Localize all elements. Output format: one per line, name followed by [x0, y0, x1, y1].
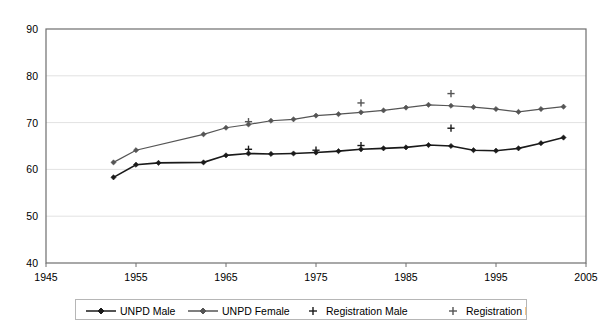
series-unpd-female — [111, 102, 566, 165]
data-point-marker — [245, 146, 252, 153]
legend-marker — [309, 307, 317, 315]
data-point-marker — [268, 151, 273, 156]
data-point-marker — [357, 99, 364, 106]
data-point-marker — [291, 151, 296, 156]
chart-plot-area: 405060708090 194519551965197519851995200… — [0, 0, 602, 290]
data-point-marker — [471, 148, 476, 153]
legend-label: UNPD Male — [120, 305, 176, 317]
legend-item-registration-female[interactable]: Registration Female — [449, 305, 526, 317]
x-tick-label: 2005 — [574, 271, 598, 283]
data-point-marker — [223, 153, 228, 158]
y-tick-label: 90 — [26, 23, 38, 35]
data-point-marker — [448, 143, 453, 148]
data-point-marker — [516, 109, 521, 114]
legend-item-unpd-female[interactable]: UNPD Female — [188, 305, 290, 317]
legend-label: Registration Male — [326, 305, 408, 317]
series-line — [114, 138, 564, 178]
data-point-marker — [291, 117, 296, 122]
data-point-marker — [201, 132, 206, 137]
data-point-marker — [516, 146, 521, 151]
y-tick-label: 50 — [26, 210, 38, 222]
plot-frame — [46, 29, 586, 263]
x-tick-label: 1945 — [34, 271, 58, 283]
chart-root: 405060708090 194519551965197519851995200… — [0, 0, 602, 335]
line-chart: 405060708090 194519551965197519851995200… — [0, 0, 602, 290]
legend-content: UNPD MaleUNPD FemaleRegistration MaleReg… — [76, 300, 526, 319]
data-point-marker — [447, 90, 454, 97]
data-point-marker — [471, 105, 476, 110]
legend-item-unpd-male[interactable]: UNPD Male — [86, 305, 176, 317]
data-point-marker — [313, 113, 318, 118]
x-tick-label: 1995 — [484, 271, 508, 283]
data-point-marker — [381, 146, 386, 151]
data-point-marker — [538, 106, 543, 111]
legend-item-registration-male[interactable]: Registration Male — [309, 305, 408, 317]
legend-label: UNPD Female — [222, 305, 290, 317]
data-point-marker — [336, 149, 341, 154]
data-point-marker — [133, 148, 138, 153]
data-point-marker — [448, 103, 453, 108]
data-point-marker — [156, 160, 161, 165]
x-tick-label: 1975 — [304, 271, 328, 283]
y-axis-tick-labels: 405060708090 — [26, 23, 38, 269]
data-point-marker — [561, 135, 566, 140]
data-point-marker — [358, 110, 363, 115]
data-point-marker — [336, 112, 341, 117]
gridlines — [46, 76, 586, 216]
data-point-marker — [426, 102, 431, 107]
legend-marker — [200, 308, 206, 314]
data-point-marker — [561, 104, 566, 109]
y-tick-label: 40 — [26, 257, 38, 269]
data-point-marker — [403, 105, 408, 110]
data-point-marker — [403, 145, 408, 150]
data-series-layer — [111, 90, 566, 180]
x-tick-label: 1985 — [394, 271, 418, 283]
data-point-marker — [493, 106, 498, 111]
data-point-marker — [426, 142, 431, 147]
data-point-marker — [111, 160, 116, 165]
chart-legend: UNPD MaleUNPD FemaleRegistration MaleReg… — [75, 299, 527, 320]
data-point-marker — [447, 125, 454, 132]
data-point-marker — [381, 108, 386, 113]
x-axis-ticks — [46, 263, 586, 267]
data-point-marker — [357, 142, 364, 149]
legend-marker — [449, 307, 457, 315]
y-tick-label: 80 — [26, 70, 38, 82]
legend-label: Registration Female — [466, 305, 526, 317]
x-axis-tick-labels: 1945195519651975198519952005 — [34, 271, 598, 283]
y-tick-label: 70 — [26, 117, 38, 129]
data-point-marker — [493, 148, 498, 153]
legend-marker — [98, 308, 104, 314]
data-point-marker — [201, 160, 206, 165]
data-point-marker — [538, 141, 543, 146]
x-tick-label: 1965 — [214, 271, 238, 283]
x-tick-label: 1955 — [124, 271, 148, 283]
series-unpd-male — [111, 135, 566, 180]
y-tick-label: 60 — [26, 163, 38, 175]
data-point-marker — [223, 125, 228, 130]
